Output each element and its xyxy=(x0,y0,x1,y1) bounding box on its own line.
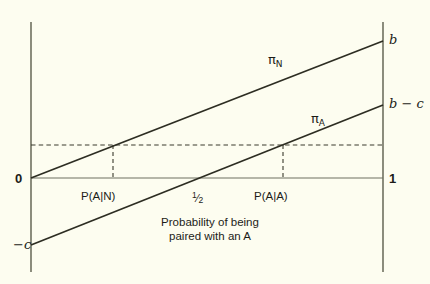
x-label-one: 1 xyxy=(389,172,396,185)
curve-label-pi-n-glyph: π xyxy=(268,52,276,67)
x-axis-caption-line-2: paired with an A xyxy=(110,229,310,243)
x-tick-label-one-half: 1⁄2 xyxy=(192,191,203,204)
x-tick-label-p-a-given-n: P(A|N) xyxy=(81,191,115,203)
curve-label-pi-a: πA xyxy=(311,112,325,128)
series-line-pi-n xyxy=(31,41,383,178)
y-label-minus-c: −c xyxy=(13,238,31,251)
y-label-b: b xyxy=(389,33,397,46)
curve-label-pi-a-subscript: A xyxy=(319,118,325,128)
curve-label-pi-a-glyph: π xyxy=(311,111,319,126)
y-label-zero: 0 xyxy=(15,172,22,185)
curve-label-pi-n: πN xyxy=(268,53,283,69)
x-axis-caption: Probability of being paired with an A xyxy=(110,215,310,244)
curve-label-pi-n-subscript: N xyxy=(276,59,283,69)
y-label-b-minus-c: b − c xyxy=(389,97,424,110)
x-axis-caption-line-1: Probability of being xyxy=(110,215,310,229)
one-half-denominator: 2 xyxy=(199,195,204,205)
x-tick-label-p-a-given-a: P(A|A) xyxy=(254,191,288,203)
payoff-diagram-figure: 0 −c b b − c 1 πN πA P(A|N) 1⁄2 P(A|A) P… xyxy=(0,0,430,284)
